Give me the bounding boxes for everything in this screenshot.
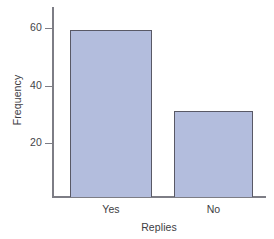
bar-no — [174, 111, 253, 197]
y-tick-mark — [45, 86, 53, 87]
bar-yes — [70, 30, 152, 197]
y-tick-mark — [45, 143, 53, 144]
y-axis-title: Frequency — [11, 45, 23, 155]
y-tick-mark — [45, 28, 53, 29]
x-category-label-no: No — [174, 203, 253, 215]
x-category-label-yes: Yes — [71, 203, 151, 215]
x-axis-title: Replies — [52, 221, 266, 233]
y-axis-line — [52, 7, 54, 197]
y-tick-label: 60 — [0, 21, 42, 33]
bar-chart: 60 40 20 Yes No Replies Frequency — [0, 0, 274, 239]
